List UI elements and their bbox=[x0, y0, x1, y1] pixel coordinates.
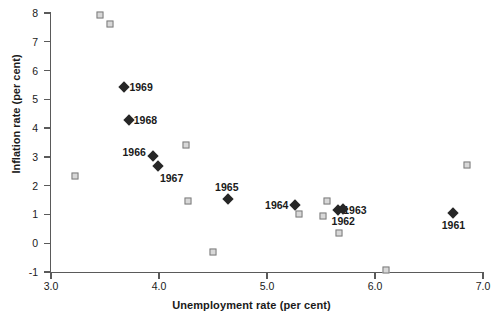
data-point-label: 1965 bbox=[215, 182, 238, 193]
x-tick bbox=[158, 272, 159, 279]
y-tick bbox=[44, 185, 51, 186]
x-tick-label: 7.0 bbox=[463, 281, 503, 292]
y-axis-title: Inflation rate (per cent) bbox=[10, 34, 22, 194]
data-point-label: 1964 bbox=[265, 200, 288, 211]
data-point-square bbox=[183, 142, 190, 149]
data-point-label: 1961 bbox=[442, 220, 465, 231]
y-tick-label: 1 bbox=[4, 209, 38, 220]
data-point-square bbox=[463, 161, 470, 168]
y-tick-label: 0 bbox=[4, 238, 38, 249]
x-axis-title: Unemployment rate (per cent) bbox=[0, 299, 503, 311]
y-tick bbox=[44, 12, 51, 13]
x-tick-label: 6.0 bbox=[355, 281, 395, 292]
data-point-square bbox=[107, 20, 114, 27]
data-point-square bbox=[71, 172, 78, 179]
data-point-label: 1968 bbox=[134, 115, 157, 126]
data-point-square bbox=[324, 198, 331, 205]
scatter-chart: 876543210-13.04.05.06.07.0 Unemployment … bbox=[0, 0, 503, 325]
data-point-square bbox=[296, 211, 303, 218]
y-tick bbox=[44, 127, 51, 128]
x-tick bbox=[482, 272, 483, 279]
y-tick bbox=[44, 70, 51, 71]
y-tick bbox=[44, 156, 51, 157]
y-tick-label: -1 bbox=[4, 267, 38, 278]
data-point-label: 1967 bbox=[160, 173, 183, 184]
data-point-square bbox=[382, 266, 389, 273]
y-tick-label: 8 bbox=[4, 8, 38, 19]
x-tick bbox=[374, 272, 375, 279]
x-tick-label: 5.0 bbox=[247, 281, 287, 292]
y-tick bbox=[44, 214, 51, 215]
data-point-square bbox=[210, 248, 217, 255]
y-tick bbox=[44, 99, 51, 100]
data-point-label: 1962 bbox=[332, 216, 355, 227]
x-tick bbox=[50, 272, 51, 279]
data-point-label: 1966 bbox=[123, 147, 146, 158]
data-point-square bbox=[185, 197, 192, 204]
plot-area bbox=[51, 13, 483, 272]
data-point-square bbox=[320, 212, 327, 219]
x-tick-label: 4.0 bbox=[139, 281, 179, 292]
data-point-square bbox=[96, 12, 103, 19]
x-tick-label: 3.0 bbox=[31, 281, 71, 292]
data-point-square bbox=[336, 230, 343, 237]
data-point-label: 1969 bbox=[129, 82, 152, 93]
y-tick bbox=[44, 41, 51, 42]
x-tick bbox=[266, 272, 267, 279]
y-tick bbox=[44, 243, 51, 244]
